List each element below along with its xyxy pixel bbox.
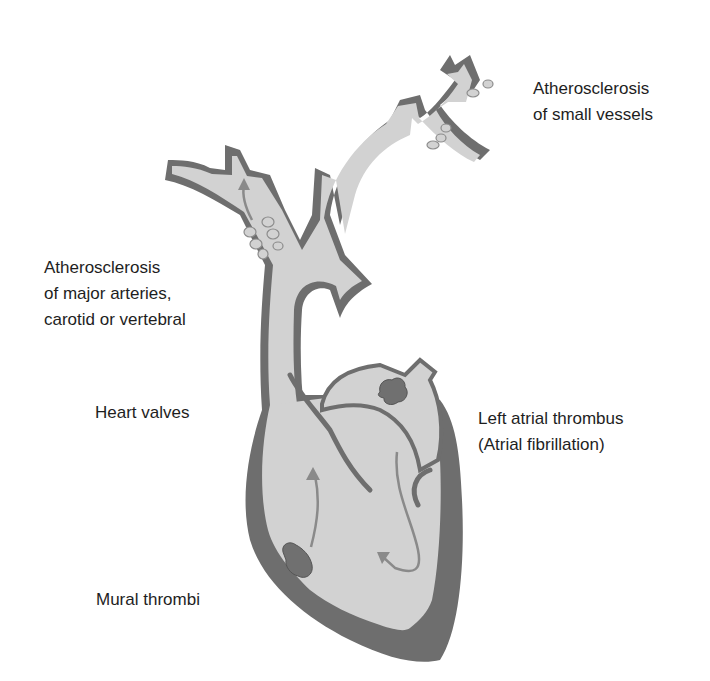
label-major-arteries: Atherosclerosis of major arteries, carot… — [44, 255, 186, 333]
label-line: of major arteries, — [44, 281, 186, 307]
label-heart-valves: Heart valves — [95, 400, 189, 426]
label-line: (Atrial fibrillation) — [478, 432, 624, 458]
label-line: Heart valves — [95, 400, 189, 426]
label-line: of small vessels — [533, 102, 653, 128]
vessel-lumen — [172, 64, 480, 410]
label-left-atrial-thrombus: Left atrial thrombus (Atrial fibrillatio… — [478, 406, 624, 458]
label-line: Left atrial thrombus — [478, 406, 624, 432]
label-line: Atherosclerosis — [533, 76, 653, 102]
label-line: Mural thrombi — [96, 587, 200, 613]
label-mural-thrombi: Mural thrombi — [96, 587, 200, 613]
label-line: carotid or vertebral — [44, 307, 186, 333]
label-line: Atherosclerosis — [44, 255, 186, 281]
label-small-vessels: Atherosclerosis of small vessels — [533, 76, 653, 128]
diagram-canvas: Atherosclerosis of small vessels Atheros… — [0, 0, 710, 681]
